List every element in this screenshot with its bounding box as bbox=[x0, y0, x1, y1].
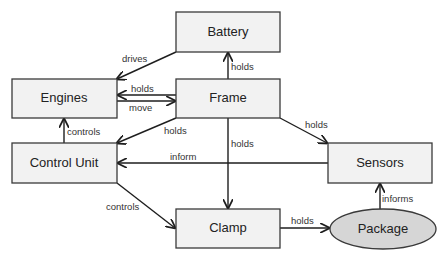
node-frame: Frame bbox=[176, 79, 280, 118]
node-clamp: Clamp bbox=[176, 209, 280, 248]
edge-engines-move-frame: move bbox=[117, 101, 175, 113]
svg-text:holds: holds bbox=[231, 138, 254, 149]
edge-battery-drives-engines: drives bbox=[117, 52, 176, 79]
svg-text:holds: holds bbox=[231, 61, 254, 72]
edge-clamp-holds-package: holds bbox=[280, 215, 329, 228]
svg-text:move: move bbox=[129, 102, 152, 113]
svg-text:Package: Package bbox=[358, 221, 409, 236]
edge-frame-holds-battery: holds bbox=[228, 53, 254, 79]
svg-text:informs: informs bbox=[382, 193, 413, 204]
edge-controlunit-controls-clamp: controls bbox=[106, 183, 175, 228]
svg-text:Clamp: Clamp bbox=[209, 220, 247, 235]
svg-text:drives: drives bbox=[122, 53, 148, 64]
svg-text:Sensors: Sensors bbox=[356, 155, 404, 170]
svg-text:Engines: Engines bbox=[41, 90, 88, 105]
svg-text:Control Unit: Control Unit bbox=[30, 155, 99, 170]
svg-text:controls: controls bbox=[106, 201, 140, 212]
edge-package-informs-sensors: informs bbox=[380, 184, 413, 209]
svg-text:holds: holds bbox=[305, 119, 328, 130]
svg-text:holds: holds bbox=[164, 125, 187, 136]
node-sensors: Sensors bbox=[328, 143, 432, 183]
node-battery: Battery bbox=[176, 12, 280, 52]
svg-text:inform: inform bbox=[170, 151, 196, 162]
edge-sensors-inform-controlunit: inform bbox=[118, 151, 328, 163]
svg-text:holds: holds bbox=[291, 215, 314, 226]
svg-text:holds: holds bbox=[131, 83, 154, 94]
diagram-canvas: drives holds holds move controls holds h… bbox=[0, 0, 442, 257]
svg-text:Battery: Battery bbox=[207, 24, 249, 39]
node-package: Package bbox=[330, 209, 436, 249]
svg-text:controls: controls bbox=[67, 126, 101, 137]
edge-frame-holds-engines: holds bbox=[118, 83, 176, 95]
svg-text:Frame: Frame bbox=[209, 90, 247, 105]
node-control-unit: Control Unit bbox=[12, 143, 117, 183]
node-engines: Engines bbox=[12, 79, 117, 118]
edge-frame-holds-controlunit: holds bbox=[117, 118, 187, 143]
edge-frame-holds-sensors: holds bbox=[280, 118, 328, 143]
edge-controlunit-controls-engines: controls bbox=[64, 119, 101, 143]
